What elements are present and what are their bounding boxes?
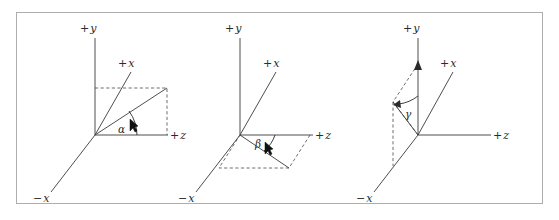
panel-alpha-label-xpos-var: x	[128, 57, 135, 70]
panel-gamma-label-z-sign: +	[493, 129, 502, 142]
panel-gamma-label-z-positive: +z	[493, 129, 509, 142]
panel-alpha-label-z-sign: +	[170, 129, 179, 142]
panel-gamma: γ +y +x +z −x	[356, 22, 509, 205]
panel-beta-label-x-positive: +x	[263, 57, 280, 70]
panel-beta-label-y-sign: +	[225, 22, 234, 35]
panel-beta-label-z-positive: +z	[315, 129, 331, 142]
panel-beta-direction-vector	[240, 135, 289, 168]
panel-gamma-axis-x-negative	[374, 135, 418, 192]
panel-gamma-projection-quad	[393, 64, 418, 135]
panel-alpha-label-z-positive: +z	[170, 129, 186, 142]
panel-gamma-axis-x-positive	[418, 72, 453, 135]
panel-alpha-label-xneg-sign: −	[33, 192, 42, 205]
panel-beta-label-xneg-var: x	[188, 192, 195, 205]
panel-gamma-label-xpos-var: x	[450, 57, 457, 70]
panel-gamma-label-z-var: z	[502, 129, 509, 142]
panel-gamma-angle-label: γ	[405, 108, 412, 120]
panel-gamma-label-y-sign: +	[403, 22, 412, 35]
panel-gamma-label-xneg-var: x	[366, 192, 373, 205]
panel-beta-cursor-icon	[265, 142, 273, 155]
panel-gamma-label-y-positive: +y	[403, 22, 420, 35]
panel-beta-label-y-positive: +y	[225, 22, 242, 35]
panel-alpha-label-xneg-var: x	[43, 192, 50, 205]
panel-gamma-angle-arc	[399, 96, 418, 104]
panel-alpha-axis-x-negative	[51, 135, 95, 192]
three-axis-angle-diagram: α +y +x +z −x	[0, 0, 559, 220]
panel-beta-label-z-var: z	[324, 129, 331, 142]
panel-alpha-angle-label: α	[118, 123, 125, 135]
panel-beta-axis-x-positive	[240, 72, 276, 135]
panel-beta-label-y-var: y	[234, 22, 242, 35]
panel-gamma-label-y-var: y	[412, 22, 420, 35]
panel-beta-label-xpos-var: x	[273, 57, 280, 70]
panel-alpha-label-y-var: y	[89, 22, 97, 35]
panel-alpha-label-y-positive: +y	[80, 22, 97, 35]
panel-gamma-label-xpos-sign: +	[440, 57, 449, 70]
panel-beta-angle-label: β	[254, 138, 261, 150]
panel-gamma-label-xneg-sign: −	[356, 192, 365, 205]
panel-gamma-label-x-negative: −x	[356, 192, 373, 205]
panel-beta-label-xneg-sign: −	[178, 192, 187, 205]
panel-alpha: α +y +x +z −x	[33, 22, 186, 205]
panel-alpha-axis-x-positive	[95, 72, 131, 135]
panel-alpha-label-x-negative: −x	[33, 192, 50, 205]
panel-alpha-label-z-var: z	[179, 129, 186, 142]
panel-beta-label-x-negative: −x	[178, 192, 195, 205]
panel-beta-label-z-sign: +	[315, 129, 324, 142]
panel-beta-axis-x-negative	[196, 135, 240, 192]
panel-beta-label-xpos-sign: +	[263, 57, 272, 70]
panel-gamma-apex-arrowhead	[414, 60, 422, 70]
panel-alpha-label-xpos-sign: +	[118, 57, 127, 70]
panel-alpha-label-y-sign: +	[80, 22, 89, 35]
panel-beta: β +y +x +z −x	[178, 22, 331, 205]
panel-alpha-label-x-positive: +x	[118, 57, 135, 70]
panel-gamma-label-x-positive: +x	[440, 57, 457, 70]
figure-root: α +y +x +z −x	[0, 0, 559, 220]
